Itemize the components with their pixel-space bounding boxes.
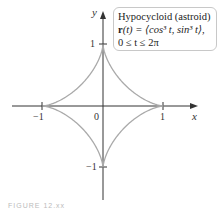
tick-label-y-neg1: −1 [86, 162, 97, 172]
legend-title: Hypocycloid (astroid) [118, 10, 212, 23]
tick-label-x-0: 0 [94, 112, 99, 122]
tick-label-y-1: 1 [90, 39, 95, 49]
legend-box: Hypocycloid (astroid) r(t) = ⟨cos³ t, si… [113, 7, 217, 51]
figure-caption: FIGURE 12.xx [8, 202, 65, 209]
tick-label-x-1: 1 [160, 112, 165, 122]
legend-equation-body: (t) = ⟨cos³ t, sin³ t⟩, [123, 24, 205, 35]
tick-label-x-neg1: −1 [33, 112, 44, 122]
y-axis-label: y [92, 7, 97, 18]
x-axis-label: x [192, 111, 197, 122]
legend-range: 0 ≤ t ≤ 2π [118, 36, 212, 49]
y-axis-arrow-icon [100, 11, 106, 19]
legend-equation: r(t) = ⟨cos³ t, sin³ t⟩, [118, 23, 212, 36]
x-axis-arrow-icon [190, 103, 198, 109]
